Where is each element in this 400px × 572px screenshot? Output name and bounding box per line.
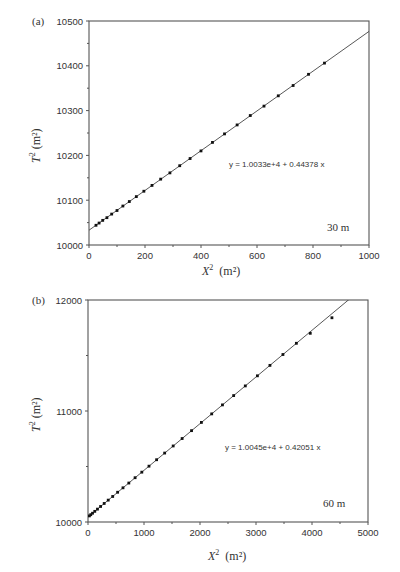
fit-equation: y = 1.0045e+4 + 0.42051 x (225, 443, 320, 452)
svg-text:0: 0 (86, 250, 91, 261)
svg-text:10500: 10500 (57, 16, 83, 27)
svg-text:10300: 10300 (57, 105, 83, 116)
svg-text:1000: 1000 (358, 250, 379, 261)
svg-text:600: 600 (249, 250, 265, 261)
svg-text:200: 200 (137, 250, 153, 261)
plot-area: 0200400600800100010000101001020010300104… (0, 0, 400, 286)
svg-text:10100: 10100 (57, 195, 83, 206)
svg-text:800: 800 (305, 250, 321, 261)
svg-text:10200: 10200 (57, 150, 83, 161)
chart-panel-a: (a) T2 (m²) X2 (m²) 02004006008001000100… (0, 0, 400, 286)
fit-equation: y = 1.0033e+4 + 0.44378 x (229, 160, 324, 169)
svg-text:4000: 4000 (301, 527, 322, 538)
svg-text:10000: 10000 (57, 240, 83, 251)
svg-text:10000: 10000 (56, 517, 82, 528)
svg-text:5000: 5000 (357, 527, 378, 538)
plot-area: 010002000300040005000100001100012000 (0, 286, 400, 572)
svg-text:12000: 12000 (56, 295, 82, 306)
svg-text:1000: 1000 (133, 527, 154, 538)
svg-text:10400: 10400 (57, 60, 83, 71)
svg-text:0: 0 (85, 527, 90, 538)
svg-text:2000: 2000 (189, 527, 210, 538)
depth-annotation: 30 m (327, 221, 349, 233)
svg-text:400: 400 (193, 250, 209, 261)
chart-panel-b: (b) T2 (m²) X2 (m²) 01000200030004000500… (0, 286, 400, 572)
svg-text:11000: 11000 (56, 406, 82, 417)
svg-text:3000: 3000 (245, 527, 266, 538)
depth-annotation: 60 m (323, 497, 345, 509)
